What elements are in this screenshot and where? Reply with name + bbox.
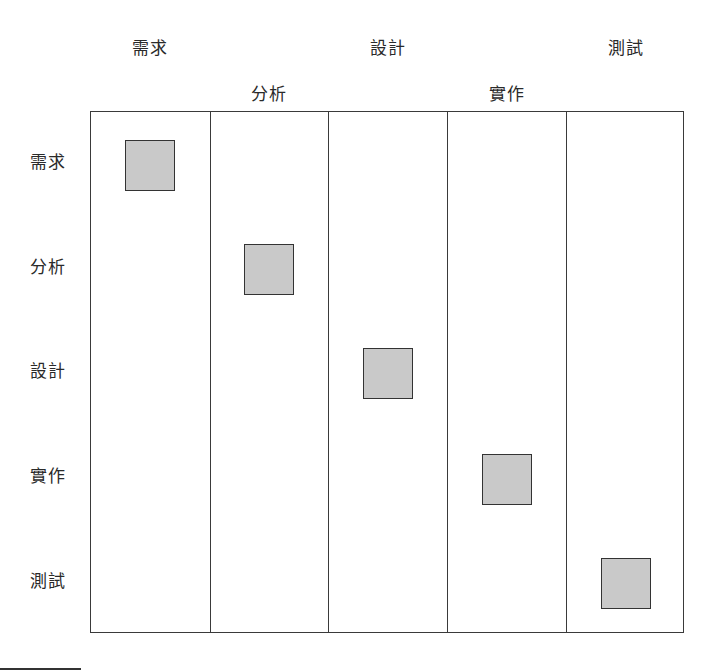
- column-divider-3: [447, 111, 448, 633]
- row-label-testing: 測試: [30, 571, 86, 591]
- footnote-rule: [0, 668, 81, 670]
- cell-marker-testing: [601, 558, 651, 609]
- cell-marker-analysis: [244, 244, 294, 295]
- column-label-requirements: 需求: [110, 38, 190, 58]
- column-label-design: 設計: [348, 38, 428, 58]
- cell-marker-requirements: [125, 140, 175, 191]
- column-label-testing: 測試: [586, 38, 666, 58]
- row-label-analysis: 分析: [30, 257, 86, 277]
- row-label-implementation: 實作: [30, 466, 86, 486]
- column-label-analysis: 分析: [229, 84, 309, 104]
- column-divider-1: [210, 111, 211, 633]
- cell-marker-implementation: [482, 454, 532, 505]
- row-label-requirements: 需求: [30, 152, 86, 172]
- row-label-design: 設計: [30, 361, 86, 381]
- column-divider-2: [328, 111, 329, 633]
- column-label-implementation: 實作: [467, 84, 547, 104]
- cell-marker-design: [363, 348, 413, 399]
- column-divider-4: [566, 111, 567, 633]
